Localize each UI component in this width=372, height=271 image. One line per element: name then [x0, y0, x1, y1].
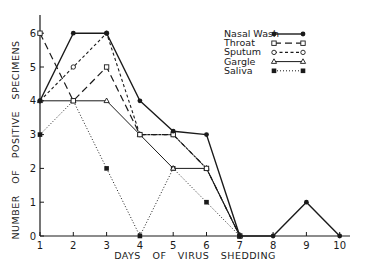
- filled-circle-marker-icon: [304, 200, 309, 205]
- y-axis-title: NUMBER OF POSITIVE SPECIMENS: [10, 40, 21, 239]
- x-axis-title: DAYS OF VIRUS SHEDDING: [114, 250, 276, 261]
- open-square-marker-icon: [38, 31, 42, 35]
- series-line: [40, 101, 240, 236]
- y-tick-label: 3: [30, 129, 36, 140]
- y-tick-label: 0: [30, 231, 36, 242]
- legend-item-saliva: Saliva: [224, 65, 305, 76]
- filled-square-marker-icon: [204, 200, 209, 205]
- filled-square-marker-icon: [138, 234, 143, 239]
- filled-circle-marker-icon: [104, 31, 109, 36]
- open-square-legend-icon: [301, 41, 305, 45]
- x-tick-label: 3: [103, 240, 109, 251]
- filled-circle-legend-icon: [272, 32, 277, 37]
- open-circle-legend-icon: [272, 50, 276, 54]
- legend-label: Saliva: [224, 65, 253, 76]
- x-tick-label: 2: [70, 240, 76, 251]
- open-square-marker-icon: [104, 65, 108, 69]
- filled-circle-marker-icon: [271, 234, 276, 239]
- y-tick-label: 1: [30, 197, 36, 208]
- filled-circle-marker-icon: [237, 234, 242, 239]
- open-square-legend-icon: [272, 41, 276, 45]
- x-tick-label: 10: [333, 240, 346, 251]
- series-saliva: [38, 99, 242, 239]
- filled-circle-marker-icon: [337, 234, 342, 239]
- legend: Nasal WashThroatSputumGargleSaliva: [223, 28, 306, 76]
- filled-square-marker-icon: [38, 132, 43, 137]
- open-square-marker-icon: [204, 166, 208, 170]
- series-line: [40, 101, 240, 236]
- open-square-marker-icon: [138, 132, 142, 136]
- y-tick-label: 2: [30, 163, 36, 174]
- filled-square-legend-icon: [272, 69, 277, 74]
- series-line: [40, 33, 340, 236]
- y-tick-label: 5: [30, 62, 36, 73]
- series-gargle: [37, 98, 242, 238]
- y-tick-label: 4: [30, 95, 36, 106]
- filled-circle-marker-icon: [71, 31, 76, 36]
- filled-circle-marker-icon: [204, 132, 209, 137]
- filled-square-legend-icon: [301, 69, 306, 74]
- filled-circle-marker-icon: [138, 98, 143, 103]
- filled-circle-marker-icon: [38, 98, 43, 103]
- x-tick-label: 1: [37, 240, 43, 251]
- open-square-marker-icon: [71, 99, 75, 103]
- filled-circle-legend-icon: [301, 32, 306, 37]
- filled-square-marker-icon: [104, 166, 109, 171]
- filled-circle-marker-icon: [171, 129, 176, 134]
- line-chart: 012345612345678910 Nasal WashThroatSputu…: [0, 0, 372, 271]
- open-circle-legend-icon: [301, 50, 305, 54]
- x-tick-label: 9: [303, 240, 309, 251]
- open-circle-marker-icon: [71, 65, 75, 69]
- y-tick-label: 6: [30, 28, 36, 39]
